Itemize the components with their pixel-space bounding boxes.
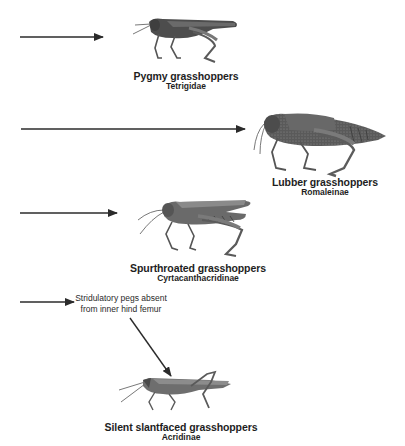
scientific-name: Acridinae xyxy=(105,433,258,443)
diagram-graphics xyxy=(0,0,405,446)
grasshopper-key-diagram: Pygmy grasshoppers Tetrigidae Lubber gra… xyxy=(0,0,405,446)
spurthroated-grasshopper-icon xyxy=(138,200,251,256)
edge-annotation: Stridulatory pegs absent from inner hind… xyxy=(75,293,167,314)
pygmy-grasshopper-icon xyxy=(133,18,237,62)
annotation-line-1: Stridulatory pegs absent xyxy=(75,293,167,304)
silent-slantfaced-grasshopper-icon xyxy=(119,372,231,410)
annotation-line-2: from inner hind femur xyxy=(75,304,167,315)
scientific-name: Tetrigidae xyxy=(134,82,239,92)
node-silent-slantfaced-label: Silent slantfaced grasshoppers Acridinae xyxy=(105,421,258,443)
node-pygmy-label: Pygmy grasshoppers Tetrigidae xyxy=(134,70,239,92)
scientific-name: Romaleinae xyxy=(272,188,378,198)
node-spurthroated-label: Spurthroated grasshoppers Cyrtacanthacri… xyxy=(130,262,266,284)
node-lubber-label: Lubber grasshoppers Romaleinae xyxy=(272,176,378,198)
scientific-name: Cyrtacanthacridinae xyxy=(130,274,266,284)
lubber-grasshopper-icon xyxy=(254,114,386,177)
arrow-to-silent-slantfaced xyxy=(130,318,171,376)
